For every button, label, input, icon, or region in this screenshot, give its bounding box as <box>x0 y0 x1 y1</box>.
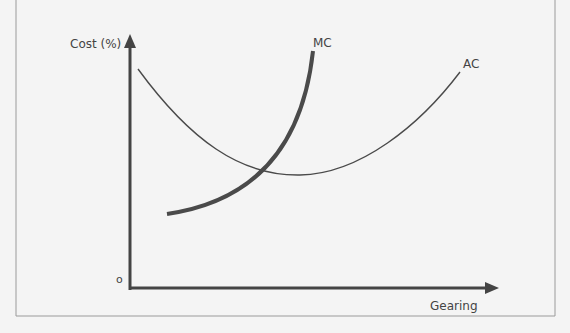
y-axis-label: Cost (%) <box>70 38 121 50</box>
ac-curve-label: AC <box>463 58 479 70</box>
mc-curve <box>167 51 313 214</box>
x-axis-arrow-icon <box>485 282 499 294</box>
origin-label: o <box>116 274 123 285</box>
ac-curve <box>138 69 460 175</box>
x-axis-label: Gearing <box>430 300 478 312</box>
diagram: Cost (%) MC AC o Gearing <box>0 0 570 333</box>
mc-curve-label: MC <box>313 37 332 49</box>
y-axis-arrow-icon <box>124 34 136 48</box>
